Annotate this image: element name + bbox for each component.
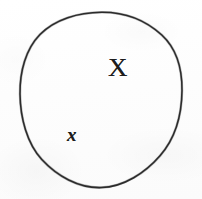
element-label: x <box>67 125 77 144</box>
set-label: X <box>108 55 128 81</box>
set-boundary-circle <box>20 12 182 187</box>
set-diagram-figure: X x <box>0 0 202 199</box>
set-circle-canvas <box>0 0 202 199</box>
